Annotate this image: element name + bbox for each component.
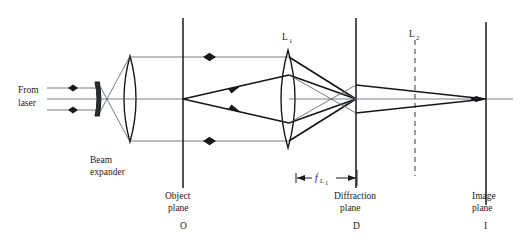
lens1-label: L (282, 32, 288, 42)
object-plane-label-line2: plane (168, 203, 189, 213)
input-ray-arrow-bottom (68, 107, 78, 110)
image-plane-label-line2: plane (472, 203, 493, 213)
object-diverging-bold-rays (183, 75, 289, 123)
collimated-ray-arrows (203, 53, 216, 145)
image-plane-label-line1: Image (472, 191, 496, 201)
source-label-line2: laser (18, 98, 37, 108)
lens1-thin-rays (289, 75, 356, 123)
beam-expander-diverging-rays (100, 56, 130, 142)
object-plane-letter: O (180, 221, 187, 231)
diffraction-plane-label-line1: Diffraction (334, 191, 376, 201)
focal-length-sub-one: 1 (325, 179, 328, 186)
dimension-arrow-right (348, 175, 356, 181)
diffraction-plane-letter: D (353, 221, 360, 231)
input-ray-arrow-top (68, 85, 78, 88)
beam-expander-label-line2: expander (90, 167, 126, 177)
source-label-line1: From (18, 85, 39, 95)
ray-diagram-canvas: f L 1 From laser Beam expander L 1 L 2 O… (0, 0, 527, 240)
object-plane-label-line1: Object (165, 191, 191, 201)
dimension-arrow-left (297, 175, 305, 181)
focal-length-sub-L: L (320, 177, 324, 184)
focal-length-dimension: f L 1 (296, 170, 357, 186)
image-plane-letter: I (484, 221, 487, 231)
lens2-label: L (409, 29, 415, 39)
diffraction-to-image-rays (343, 85, 513, 113)
optical-diagram-figure: f L 1 From laser Beam expander L 1 L 2 O… (0, 0, 527, 240)
beam-expander-label-line1: Beam (90, 155, 113, 165)
lens2-label-sub: 2 (416, 34, 419, 41)
collimated-beam-rays (130, 57, 289, 141)
diffraction-plane-label-line2: plane (340, 203, 361, 213)
lens1-label-sub: 1 (289, 37, 292, 44)
input-beam-rays (47, 85, 99, 114)
